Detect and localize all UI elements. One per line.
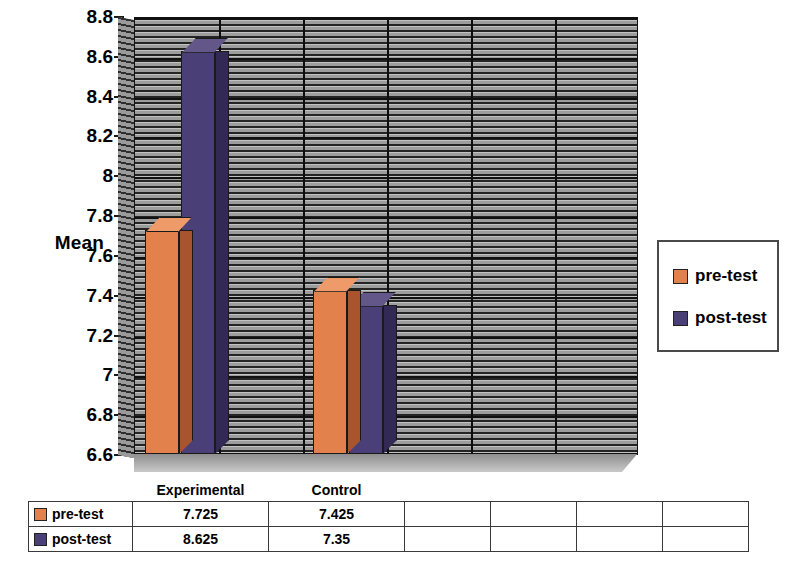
legend-label-post-test: post-test [695,308,767,328]
bar-side-face [179,230,193,454]
table-series-label: pre-test [52,506,103,522]
table-series-key: post-test [29,527,133,552]
y-axis-tick-label: 7.6 [87,245,113,267]
table-header-cell: Experimental [133,479,269,502]
legend-swatch-pre-test [673,269,688,284]
table-cell [491,502,577,527]
bar-pre-test-control [313,290,347,454]
table-cell [663,527,749,552]
table-cell [405,527,491,552]
y-axis-tick-label: 7 [102,364,113,386]
table-swatch [34,508,47,521]
y-axis-tick-label: 8.6 [87,46,113,68]
bar-front-face [145,230,179,454]
table-cell: 7.725 [133,502,269,527]
table-series-key: pre-test [29,502,133,527]
gridline-vertical [471,18,473,454]
table-cell [405,502,491,527]
legend-swatch-post-test [673,311,688,326]
bar-pre-test-experimental [145,230,179,454]
y-axis-tick-label: 8.2 [87,125,113,147]
table-header-cell [491,479,577,502]
table-header-row: ExperimentalControl [29,479,749,502]
legend-item-pre-test: pre-test [673,266,757,286]
table-cell [577,527,663,552]
y-axis-tick-label: 8 [102,165,113,187]
y-axis-tick-label: 8.8 [87,6,113,28]
table-series-label: post-test [52,531,111,547]
legend-label-pre-test: pre-test [695,266,757,286]
table-cell: 8.625 [133,527,269,552]
table-header-corner [29,479,133,502]
table-cell: 7.425 [269,502,405,527]
plot-background [134,17,638,455]
table-row: post-test8.6257.35 [29,527,749,552]
table-cell [491,527,577,552]
legend: pre-test post-test [657,240,779,352]
plot-floor [134,453,638,472]
table-row: pre-test7.7257.425 [29,502,749,527]
gridline-vertical [555,18,557,454]
table-header-cell: Control [269,479,405,502]
gridline-horizontal [135,18,637,20]
table-swatch [34,533,47,546]
table-cell: 7.35 [269,527,405,552]
bar-side-face [383,305,397,454]
table-header-cell [405,479,491,502]
plot-left-wall [118,17,135,458]
y-axis-tick-label: 7.2 [87,325,113,347]
plot-area [118,17,638,472]
table-cell [577,502,663,527]
table-cell [663,502,749,527]
y-axis-tick-label: 6.6 [87,444,113,466]
bar-front-face [313,290,347,454]
table-header-cell [577,479,663,502]
gridline-vertical [303,18,305,454]
bar-side-face [215,51,229,454]
y-axis-tick-label: 7.8 [87,205,113,227]
data-table: ExperimentalControlpre-test7.7257.425pos… [28,479,749,552]
legend-item-post-test: post-test [673,308,767,328]
bar-side-face [347,290,361,454]
y-axis-tick-label: 8.4 [87,86,113,108]
table-header-cell [663,479,749,502]
y-axis-tick-label: 6.8 [87,404,113,426]
y-axis-tick-label: 7.4 [87,285,113,307]
bar-chart: Mean 8.88.68.48.287.87.67.47.276.86.6 pr… [0,0,796,564]
